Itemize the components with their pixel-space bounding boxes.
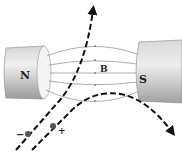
field-lines: [46, 46, 137, 101]
negative-sign: −: [16, 129, 24, 140]
south-magnet: S: [136, 40, 182, 103]
negative-particle: [25, 131, 31, 137]
positive-particle: [50, 123, 56, 129]
field-arrows: [94, 45, 96, 102]
north-magnet: N: [4, 46, 51, 99]
positive-sign: +: [58, 126, 66, 136]
south-pole-label: S: [139, 73, 147, 86]
north-pole-label: N: [20, 69, 30, 82]
magnetic-field-diagram: N S B − +: [0, 0, 182, 152]
field-label: B: [100, 64, 108, 74]
